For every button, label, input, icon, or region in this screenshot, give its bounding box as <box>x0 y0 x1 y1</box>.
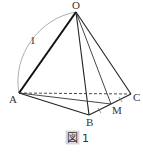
label-A: A <box>9 93 17 105</box>
edge-AC-hidden <box>19 93 131 94</box>
edge-AB <box>19 93 89 115</box>
label-C: C <box>133 91 140 103</box>
label-O: O <box>72 0 80 11</box>
edge-OB <box>76 12 89 115</box>
segment-AM <box>19 93 111 104</box>
caption-number: 1 <box>82 132 89 145</box>
segment-OM <box>76 12 111 104</box>
label-B: B <box>86 116 93 128</box>
tetrahedron-diagram: O A B C M 1 図 1 <box>0 0 143 156</box>
label-arc-length: 1 <box>30 34 36 46</box>
edge-BC <box>89 94 131 115</box>
caption-kanji: 図 <box>67 132 78 145</box>
label-M: M <box>112 104 122 116</box>
